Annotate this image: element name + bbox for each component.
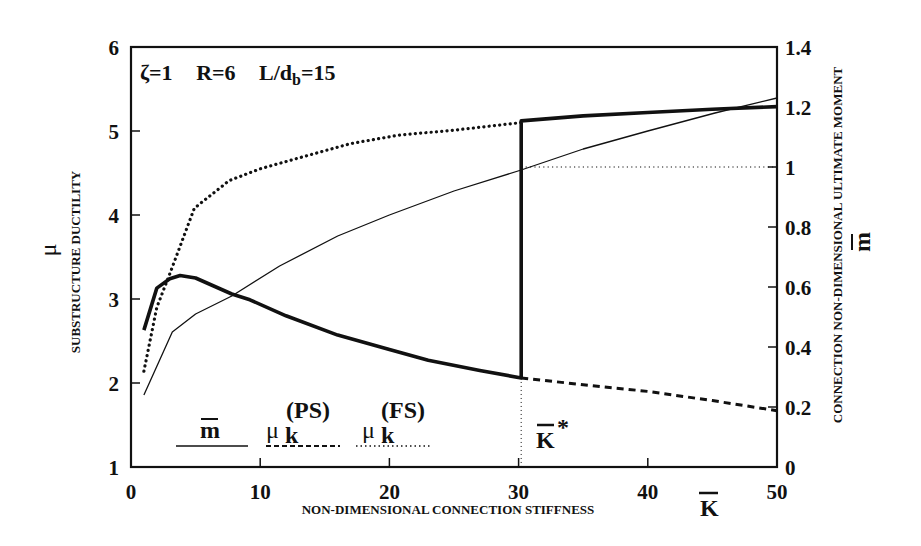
parameter-annotation: ζ=1 R=6 L/db=15 <box>140 60 336 88</box>
legend-item-mu-fs: μ k (FS) <box>356 397 430 448</box>
svg-text:*: * <box>557 414 569 440</box>
y-left-tick-label: 3 <box>109 288 120 312</box>
series-layer <box>144 98 777 411</box>
x-tick-label: 30 <box>508 480 529 504</box>
y-right-symbol: m <box>849 232 875 252</box>
y-right-tick-label: 1 <box>785 156 796 180</box>
svg-text:k: k <box>285 422 299 448</box>
svg-text:m: m <box>200 417 220 443</box>
x-tick-label: 50 <box>767 480 788 504</box>
y-left-tick-label: 2 <box>109 372 120 396</box>
svg-text:k: k <box>381 422 395 448</box>
svg-text:K: K <box>700 495 719 521</box>
r-label: R=6 <box>196 60 235 85</box>
svg-text:μ: μ <box>362 417 375 443</box>
y-right-tick-label: 0.2 <box>785 396 811 420</box>
y-right-tick-label: 0 <box>785 456 796 480</box>
svg-text:(PS): (PS) <box>286 397 330 423</box>
l-sub: b <box>292 71 301 88</box>
zeta-label: ζ=1 <box>140 60 173 85</box>
legend-item-mu-ps: μ k (PS) <box>266 397 340 448</box>
legend: m μ k (PS) μ k (FS) <box>176 397 430 448</box>
y-right-title: CONNECTION NON-DIMENSIONAL ULTIMATE MOME… <box>830 66 845 423</box>
y-right-tick-label: 0.8 <box>785 216 811 240</box>
y-left-symbol: μ <box>35 244 61 257</box>
y-right-tick-label: 0.6 <box>785 276 811 300</box>
y-left-tick-label: 5 <box>109 120 120 144</box>
y-left-tick-label: 6 <box>109 36 120 60</box>
x-tick-label: 10 <box>250 480 271 504</box>
chart: 0102030405012345600.20.40.60.811.21.4 ζ=… <box>0 0 921 546</box>
x-title: NON-DIMENSIONAL CONNECTION STIFFNESS <box>302 502 595 517</box>
series-line-3 <box>144 98 777 395</box>
l-value: =15 <box>301 60 336 85</box>
l-over-db-label: L/d <box>259 60 292 85</box>
svg-text:(FS): (FS) <box>381 397 425 423</box>
k-star-label: K * <box>536 414 569 453</box>
legend-item-m: m <box>176 417 248 446</box>
x-tick-label: 20 <box>379 480 400 504</box>
svg-text:μ: μ <box>266 417 279 443</box>
x-tick-label: 0 <box>126 480 137 504</box>
y-left-tick-label: 4 <box>109 204 120 228</box>
svg-text:K: K <box>536 427 555 453</box>
y-right-tick-label: 1.2 <box>785 96 811 120</box>
y-left-tick-label: 1 <box>109 456 120 480</box>
y-right-tick-label: 0.4 <box>785 336 812 360</box>
x-tick-label: 40 <box>637 480 658 504</box>
y-left-title: SUBSTRUCTURE DUCTILITY <box>68 170 83 353</box>
x-symbol: K <box>699 493 719 521</box>
y-right-tick-label: 1.4 <box>785 36 812 60</box>
series-line-0 <box>144 107 777 378</box>
series-line-2 <box>521 378 777 411</box>
